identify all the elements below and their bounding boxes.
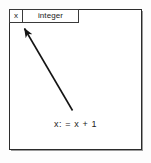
variable-declaration-row: x integer	[10, 10, 79, 23]
frame-drop-shadow-right	[142, 11, 143, 151]
assignment-statement-text: x: = x + 1	[0, 119, 151, 129]
variable-type-cell[interactable]: integer	[22, 9, 79, 23]
diagram-canvas: x integer x: = x + 1	[0, 0, 151, 163]
frame-drop-shadow-bottom	[11, 150, 143, 151]
variable-name-cell[interactable]: x	[9, 9, 23, 23]
